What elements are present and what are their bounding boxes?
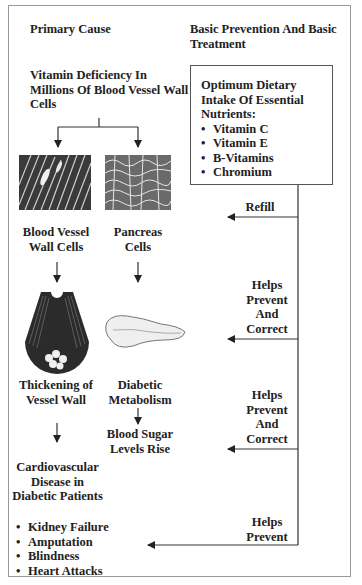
connector-arrows bbox=[0, 0, 362, 585]
